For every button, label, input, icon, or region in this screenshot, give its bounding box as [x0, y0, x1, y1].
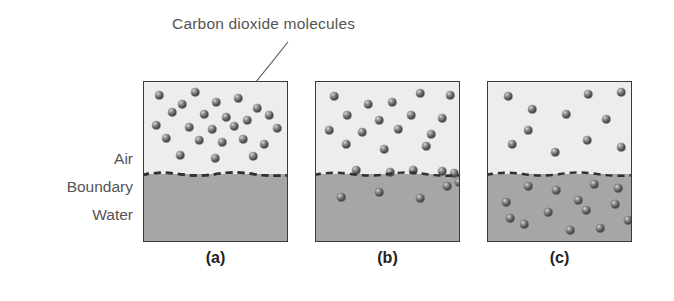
co2-molecule-air: [253, 104, 261, 112]
co2-molecule-air: [195, 136, 203, 144]
co2-molecule-air: [208, 125, 216, 133]
co2-molecule-water: [611, 200, 619, 208]
co2-molecule-air: [388, 98, 396, 106]
co2-molecule-air: [504, 92, 512, 100]
co2-molecule-air: [265, 111, 273, 119]
panel-c: [487, 81, 632, 242]
co2-molecule-water: [544, 208, 552, 216]
co2-molecule-water: [416, 194, 424, 202]
co2-molecule-air: [260, 140, 268, 148]
co2-molecule-water: [596, 224, 604, 232]
co2-molecule-air: [178, 100, 186, 108]
co2-molecule-air: [380, 145, 388, 153]
co2-molecule-air: [342, 140, 350, 148]
co2-molecule-water: [502, 198, 510, 206]
panel-b: [315, 81, 460, 242]
co2-molecule-air: [234, 94, 242, 102]
co2-molecule-air: [617, 88, 625, 96]
co2-molecule-air: [230, 122, 238, 130]
co2-molecule-air: [438, 114, 446, 122]
co2-molecule-boundary: [352, 166, 360, 174]
co2-molecule-boundary: [409, 166, 417, 174]
co2-solubility-diagram: Carbon dioxide molecules Air Boundary Wa…: [0, 0, 674, 301]
co2-molecule-air: [583, 136, 591, 144]
co2-molecule-air: [211, 154, 219, 162]
co2-molecule-air: [191, 88, 199, 96]
co2-molecule-air: [364, 100, 372, 108]
co2-molecule-water: [337, 193, 345, 201]
panel-caption-b: (b): [315, 249, 460, 267]
co2-molecule-water: [375, 188, 383, 196]
callout-label: Carbon dioxide molecules: [172, 15, 355, 33]
co2-molecule-air: [617, 143, 625, 151]
co2-molecule-air: [185, 123, 193, 131]
co2-molecule-air: [602, 115, 610, 123]
co2-molecule-air: [508, 140, 516, 148]
co2-molecule-air: [446, 91, 454, 99]
co2-molecule-air: [162, 134, 170, 142]
co2-molecule-air: [176, 151, 184, 159]
co2-molecule-air: [343, 111, 351, 119]
co2-molecule-air: [152, 121, 160, 129]
region-label-boundary: Boundary: [67, 178, 133, 196]
region-label-water: Water: [92, 206, 133, 224]
co2-molecule-air: [358, 128, 366, 136]
co2-molecule-water: [614, 184, 622, 192]
co2-molecule-air: [524, 126, 532, 134]
co2-molecule-air: [212, 98, 220, 106]
co2-molecule-water: [624, 216, 632, 224]
panel-caption-c: (c): [487, 249, 632, 267]
co2-molecule-boundary: [450, 169, 458, 177]
co2-molecule-boundary: [386, 168, 394, 176]
co2-molecule-air: [422, 142, 430, 150]
co2-molecule-water: [520, 220, 528, 228]
co2-molecule-air: [325, 126, 333, 134]
water-region: [488, 174, 631, 241]
panel-a: [143, 81, 288, 242]
co2-molecule-water: [566, 226, 574, 234]
co2-molecule-air: [407, 111, 415, 119]
water-region: [316, 174, 459, 241]
co2-molecule-air: [562, 110, 570, 118]
co2-molecule-water: [506, 214, 514, 222]
co2-molecule-air: [416, 89, 424, 97]
co2-molecule-water: [574, 196, 582, 204]
co2-molecule-air: [155, 91, 163, 99]
co2-molecule-air: [551, 148, 559, 156]
co2-molecule-air: [273, 124, 281, 132]
co2-molecule-water: [582, 206, 590, 214]
co2-molecule-air: [222, 113, 230, 121]
co2-molecule-air: [394, 125, 402, 133]
co2-molecule-water: [552, 186, 560, 194]
co2-molecule-air: [375, 116, 383, 124]
co2-molecule-air: [249, 152, 257, 160]
co2-molecule-boundary: [438, 167, 446, 175]
co2-molecule-air: [200, 110, 208, 118]
co2-molecule-air: [218, 138, 226, 146]
co2-molecule-air: [427, 130, 435, 138]
panel-caption-a: (a): [143, 249, 288, 267]
co2-molecule-air: [584, 90, 592, 98]
co2-molecule-air: [168, 108, 176, 116]
co2-molecule-air: [528, 105, 536, 113]
co2-molecule-water: [524, 182, 532, 190]
co2-molecule-water: [443, 182, 451, 190]
water-region: [144, 174, 287, 241]
co2-molecule-air: [239, 135, 247, 143]
co2-molecule-water: [590, 180, 598, 188]
region-label-air: Air: [114, 150, 133, 168]
co2-molecule-air: [243, 116, 251, 124]
co2-molecule-water: [455, 178, 460, 186]
co2-molecule-air: [330, 92, 338, 100]
